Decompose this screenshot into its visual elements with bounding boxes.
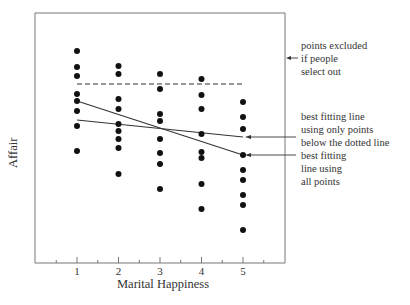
data-point [157, 71, 163, 77]
data-point [116, 63, 122, 69]
data-point [74, 73, 80, 79]
data-point [199, 149, 205, 155]
x-axis-title: Marital Happiness [117, 277, 209, 292]
data-point [74, 48, 80, 54]
arrowhead-icon [245, 153, 251, 157]
data-point [116, 128, 122, 134]
data-point [199, 106, 205, 112]
data-point [240, 177, 246, 183]
annotation-fit-below-cutoff: best fitting line using only points belo… [301, 110, 389, 149]
annotation-excluded: points excluded if people select out [301, 39, 367, 78]
data-point [199, 131, 205, 137]
data-point [74, 108, 80, 114]
data-point [240, 167, 246, 173]
arrowhead-icon [245, 135, 251, 139]
arrowhead-icon [286, 56, 291, 60]
data-point [74, 148, 80, 154]
data-point [240, 99, 246, 105]
data-point [157, 136, 163, 142]
data-points [74, 48, 246, 233]
data-point [116, 171, 122, 177]
data-point [240, 192, 246, 198]
data-point [74, 64, 80, 70]
data-point [157, 161, 163, 167]
x-tick-label: 4 [199, 265, 205, 277]
x-axis-ticks [56, 257, 264, 263]
y-axis-title: Affair [6, 138, 21, 168]
data-point [157, 86, 163, 92]
data-point [240, 202, 246, 208]
data-point [240, 227, 246, 233]
data-point [74, 91, 80, 97]
data-point [157, 150, 163, 156]
data-point [116, 136, 122, 142]
data-point [157, 186, 163, 192]
data-point [240, 114, 246, 120]
x-tick-label: 2 [116, 265, 122, 277]
data-point [116, 106, 122, 112]
data-point [199, 181, 205, 187]
data-point [116, 145, 122, 151]
data-point [74, 98, 80, 104]
data-point [116, 96, 122, 102]
x-tick-label: 5 [240, 265, 246, 277]
x-tick-label: 1 [74, 265, 80, 277]
data-point [199, 206, 205, 212]
data-point [199, 92, 205, 98]
data-point [116, 71, 122, 77]
data-point [199, 155, 205, 161]
data-point [199, 76, 205, 82]
x-tick-label: 3 [157, 265, 163, 277]
data-point [157, 118, 163, 124]
data-point [157, 111, 163, 117]
data-point [74, 123, 80, 129]
data-point [116, 121, 122, 127]
annotation-fit-all-points: best fitting line using all points [301, 149, 346, 188]
data-point [240, 126, 246, 132]
